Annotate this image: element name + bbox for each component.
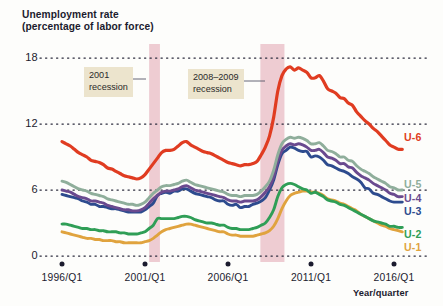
series-label-u-3: U-3 bbox=[404, 205, 422, 217]
series-label-u-4: U-4 bbox=[404, 192, 422, 204]
annotation-recession-2001: 2001recession bbox=[84, 67, 133, 97]
recession-band-2001 bbox=[149, 44, 160, 262]
series-label-u-2: U-2 bbox=[404, 228, 422, 240]
plot-area bbox=[0, 0, 443, 306]
annotation-recession-2008-2009: 2008–2009recession bbox=[188, 69, 244, 99]
unemployment-rate-chart: Unemployment rate (percentage of labor f… bbox=[0, 0, 443, 306]
annotation-line-2: recession bbox=[89, 82, 128, 94]
ytick-label-12: 12 bbox=[18, 117, 38, 129]
annotation-line-1: 2001 bbox=[89, 70, 128, 82]
xtick-label-2001: 2001/Q1 bbox=[110, 272, 180, 283]
annotation-line-2: recession bbox=[193, 84, 239, 96]
xtick-label-2006: 2006/Q1 bbox=[193, 272, 263, 283]
xtick-label-2016: 2016/Q1 bbox=[359, 272, 429, 283]
series-label-u-5: U-5 bbox=[404, 178, 422, 190]
ytick-label-6: 6 bbox=[18, 183, 38, 195]
xtick-dot-1996 bbox=[60, 262, 65, 267]
xtick-dot-2001 bbox=[143, 262, 148, 267]
xtick-label-1996: 1996/Q1 bbox=[27, 272, 97, 283]
xtick-dot-2016 bbox=[392, 262, 397, 267]
annotation-line-1: 2008–2009 bbox=[193, 72, 239, 84]
series-label-u-1: U-1 bbox=[404, 241, 422, 253]
xtick-dot-2011 bbox=[309, 262, 314, 267]
ytick-label-0: 0 bbox=[18, 249, 38, 261]
xtick-label-2011: 2011/Q1 bbox=[276, 272, 346, 283]
xtick-dot-2006 bbox=[226, 262, 231, 267]
ytick-label-18: 18 bbox=[18, 51, 38, 63]
series-label-u-6: U-6 bbox=[404, 131, 422, 143]
x-axis-title: Year/quarter bbox=[353, 288, 408, 298]
